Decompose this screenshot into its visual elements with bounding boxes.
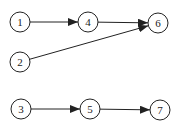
node-6: 6 (148, 13, 168, 33)
node-label: 2 (17, 56, 23, 68)
node-label: 3 (18, 103, 24, 115)
graph-svg: 1462357 (0, 0, 179, 133)
node-4: 4 (78, 12, 98, 32)
edge-4-to-6 (98, 22, 148, 23)
node-label: 5 (87, 103, 93, 115)
node-label: 7 (157, 104, 163, 116)
node-1: 1 (10, 12, 30, 32)
node-label: 1 (17, 16, 23, 28)
edge-5-to-7 (100, 109, 150, 110)
node-5: 5 (80, 99, 100, 119)
graph-diagram: 1462357 (0, 0, 179, 133)
node-3: 3 (11, 99, 31, 119)
node-label: 6 (155, 17, 161, 29)
nodes: 1462357 (10, 12, 170, 120)
edges (30, 22, 150, 110)
node-7: 7 (150, 100, 170, 120)
node-2: 2 (10, 52, 30, 72)
node-label: 4 (85, 16, 91, 28)
